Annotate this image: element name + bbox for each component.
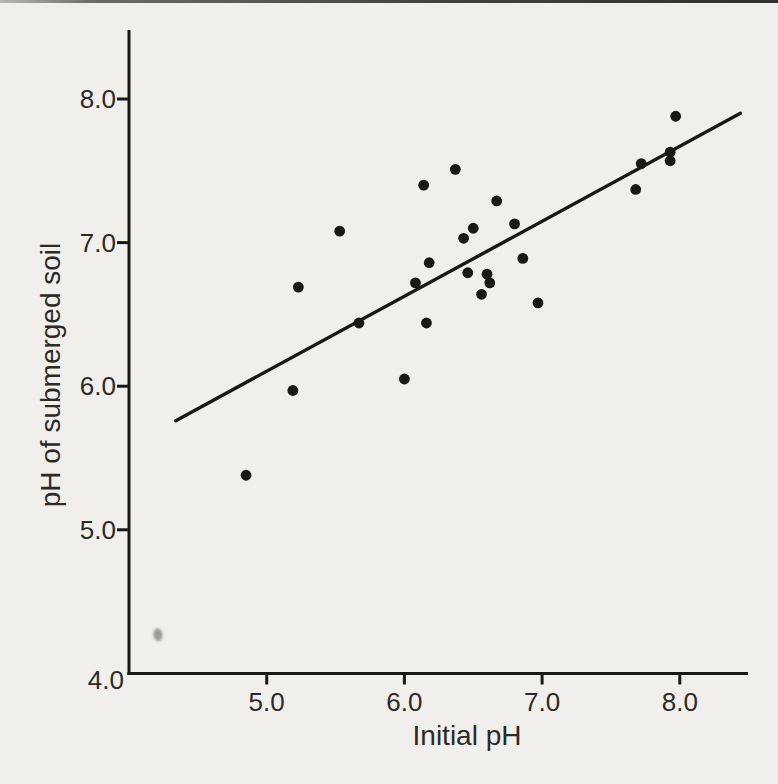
x-tick-label: 5.0: [249, 687, 285, 717]
data-point: [517, 253, 528, 264]
regression-line-layer: [176, 113, 741, 420]
data-point: [533, 298, 544, 309]
scatter-chart: 8.07.06.05.04.05.06.07.08.0 Initial pH p…: [0, 0, 778, 784]
data-point: [241, 470, 252, 481]
data-point: [287, 385, 298, 396]
data-point: [410, 277, 421, 288]
data-point: [462, 267, 473, 278]
data-point: [491, 196, 502, 207]
data-point: [468, 223, 479, 234]
scan-artifacts-layer: [153, 628, 164, 642]
data-point: [509, 219, 520, 230]
data-point: [476, 289, 487, 300]
data-point: [334, 226, 345, 237]
y-tick-label: 7.0: [80, 228, 116, 258]
data-points-layer: [241, 111, 681, 481]
data-point: [636, 158, 647, 169]
data-point: [399, 374, 410, 385]
y-tick-label: 4.0: [88, 665, 124, 695]
y-axis-title: pH of submerged soil: [35, 243, 66, 508]
data-point: [418, 180, 429, 191]
data-point: [421, 318, 432, 329]
y-tick-label: 6.0: [80, 371, 116, 401]
tick-labels: 8.07.06.05.04.05.06.07.08.0: [80, 84, 698, 717]
data-point: [670, 111, 681, 122]
scan-smudge-artifact: [153, 628, 164, 642]
axes: [117, 30, 748, 685]
data-point: [354, 318, 365, 329]
scanned-page: 8.07.06.05.04.05.06.07.08.0 Initial pH p…: [0, 0, 778, 784]
x-axis-title: Initial pH: [413, 720, 522, 751]
regression-line: [176, 113, 741, 420]
y-tick-label: 8.0: [80, 84, 116, 114]
data-point: [424, 257, 435, 268]
data-point: [458, 233, 469, 244]
data-point: [665, 155, 676, 166]
x-tick-label: 7.0: [524, 687, 560, 717]
data-point: [450, 164, 461, 175]
y-tick-label: 5.0: [80, 515, 116, 545]
x-tick-label: 8.0: [662, 687, 698, 717]
data-point: [293, 282, 304, 293]
x-tick-label: 6.0: [386, 687, 422, 717]
data-point: [484, 277, 495, 288]
data-point: [630, 184, 641, 195]
